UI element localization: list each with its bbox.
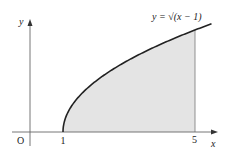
x-tick-label-5: 5 xyxy=(192,134,197,145)
function-label: y = √(x − 1) xyxy=(151,11,202,23)
x-axis-arrow-icon xyxy=(211,130,218,135)
shaded-region xyxy=(63,30,195,132)
y-axis-label: y xyxy=(18,16,24,27)
x-tick-label-1: 1 xyxy=(61,135,66,146)
area-under-curve-chart: y x O 1 5 y = √(x − 1) xyxy=(0,0,226,154)
x-axis-label: x xyxy=(210,138,216,149)
y-axis-arrow-icon xyxy=(28,19,33,26)
origin-label: O xyxy=(17,135,24,146)
